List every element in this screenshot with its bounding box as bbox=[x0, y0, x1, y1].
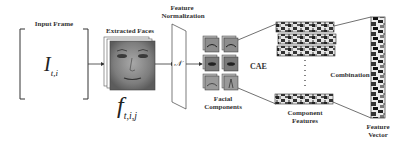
feature-normalization-label-1: Feature bbox=[162, 4, 202, 12]
component-features-label-1: Component bbox=[283, 109, 327, 117]
feature-vector bbox=[371, 17, 385, 118]
feature-vector-label-1: Feature bbox=[360, 123, 396, 131]
feature-normalization-label-2: Normalization bbox=[160, 12, 206, 20]
facial-components-label-1: Facial bbox=[205, 95, 241, 103]
face-symbol: ft,i,j bbox=[117, 92, 137, 121]
combination-label: Combination bbox=[329, 71, 371, 79]
input-frame-symbol: It,i bbox=[44, 53, 58, 78]
cae-label: CAE bbox=[250, 63, 267, 71]
feature-vector-label-2: Vector bbox=[360, 131, 396, 139]
facial-components-label-2: Components bbox=[201, 103, 245, 111]
component-feature-bars bbox=[275, 22, 336, 104]
component-features-label-2: Features bbox=[283, 117, 327, 125]
extracted-faces-stack bbox=[104, 37, 155, 90]
input-frame-label: Input Frame bbox=[22, 20, 86, 28]
extracted-faces-label: Extracted Faces bbox=[102, 27, 158, 35]
facial-components-grid bbox=[203, 36, 238, 90]
normalization-symbol: 𝒩 bbox=[174, 59, 182, 69]
